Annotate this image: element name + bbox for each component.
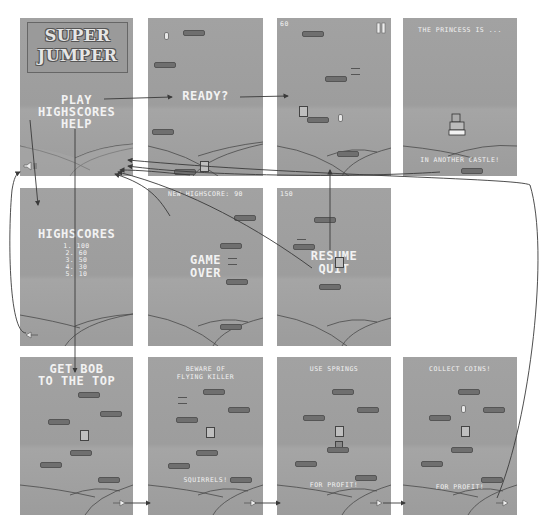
platform: [152, 129, 174, 135]
screen-paused: 150 RESUME QUIT: [277, 188, 391, 346]
score-label: 150: [280, 190, 293, 198]
help4-top: COLLECT COINS!: [403, 365, 517, 373]
platform: [176, 417, 198, 423]
platform: [302, 31, 324, 37]
platform: [234, 215, 256, 221]
screen-highscores: HIGHSCORES 1. 100 2. 60 3. 50 4. 30 5. 1…: [20, 188, 133, 346]
platform: [295, 461, 317, 467]
highscores-title: HIGHSCORES: [20, 228, 133, 241]
help2-line1: BEWARE OF: [148, 365, 263, 373]
speaker-icon[interactable]: [23, 161, 39, 171]
platform: [100, 411, 122, 417]
squirrel-enemy: [228, 258, 237, 265]
platform: [183, 30, 205, 36]
logo-line2: JUMPER: [28, 46, 127, 65]
hills-background: [403, 357, 517, 515]
platform: [168, 463, 190, 469]
help3-top: USE SPRINGS: [277, 365, 391, 373]
platform: [314, 217, 336, 223]
screen-help-1: GET BOB TO THE TOP: [20, 357, 133, 515]
help1-line2: TO THE TOP: [20, 375, 133, 388]
platform: [332, 389, 354, 395]
arrow-right-icon[interactable]: [369, 499, 383, 507]
logo-line1: SUPER: [28, 26, 127, 45]
platform: [458, 389, 480, 395]
help2-line2: FLYING KILLER: [148, 373, 263, 381]
screen-running: 60: [277, 18, 391, 176]
new-highscore-text: NEW HIGHSCORE: 90: [148, 190, 263, 198]
platform: [429, 415, 451, 421]
coin: [164, 32, 169, 40]
bob-character: [335, 426, 344, 437]
platform: [319, 284, 341, 290]
platform: [220, 243, 242, 249]
bob-character: [461, 426, 470, 437]
hills-background: [403, 18, 517, 176]
princess-text: THE PRINCESS IS ...: [403, 26, 517, 34]
game-logo: SUPER JUMPER: [27, 22, 128, 73]
score-label: 60: [280, 20, 289, 28]
bob-character: [206, 427, 215, 438]
menu-quit[interactable]: QUIT: [277, 263, 391, 276]
platform: [98, 477, 120, 483]
platform: [228, 407, 250, 413]
platform: [483, 407, 505, 413]
platform: [303, 415, 325, 421]
platform: [196, 450, 218, 456]
platform: [461, 168, 483, 174]
hills-background: [277, 18, 391, 176]
platform: [230, 477, 252, 483]
arrow-right-icon[interactable]: [495, 499, 509, 507]
screen-help-4: COLLECT COINS! FOR PROFIT!: [403, 357, 517, 515]
arrow-left-icon[interactable]: [25, 331, 39, 339]
platform: [40, 462, 62, 468]
bob-character: [335, 257, 344, 268]
platform: [48, 419, 70, 425]
platform: [307, 117, 329, 123]
platform: [154, 62, 176, 68]
arrow-right-icon[interactable]: [112, 499, 126, 507]
platform: [327, 447, 349, 453]
screen-level-end: THE PRINCESS IS ... IN ANOTHER CASTLE!: [403, 18, 517, 176]
pause-icon[interactable]: [376, 22, 387, 34]
arrow-right-icon[interactable]: [243, 499, 257, 507]
screen-main-menu: SUPER JUMPER PLAY HIGHSCORES HELP: [20, 18, 133, 176]
bob-character: [200, 161, 209, 172]
help3-bottom: FOR PROFIT!: [277, 481, 391, 489]
bob-character: [80, 430, 89, 441]
squirrel-enemy: [178, 397, 187, 404]
screen-game-over: NEW HIGHSCORE: 90 GAME OVER: [148, 188, 263, 346]
screen-help-3: USE SPRINGS FOR PROFIT!: [277, 357, 391, 515]
platform: [174, 169, 196, 175]
castle-text: IN ANOTHER CASTLE!: [403, 156, 517, 164]
castle-icon: [447, 113, 467, 137]
ready-label: READY?: [148, 90, 263, 103]
platform: [451, 447, 473, 453]
platform: [421, 461, 443, 467]
platform: [70, 450, 92, 456]
platform: [226, 279, 248, 285]
help4-bottom: FOR PROFIT!: [403, 483, 517, 491]
platform: [78, 392, 100, 398]
bob-character: [299, 106, 308, 117]
platform: [357, 407, 379, 413]
coin: [461, 405, 466, 413]
platform: [325, 76, 347, 82]
screen-help-2: BEWARE OF FLYING KILLER SQUIRRELS!: [148, 357, 263, 515]
screen-ready: READY?: [148, 18, 263, 176]
coin: [338, 114, 343, 122]
squirrel-enemy: [351, 68, 360, 75]
menu-help[interactable]: HELP: [20, 118, 133, 131]
highscore-entry-5: 5. 10: [20, 270, 133, 278]
platform: [220, 324, 242, 330]
platform: [203, 389, 225, 395]
platform: [337, 151, 359, 157]
hills-background: [277, 357, 391, 515]
